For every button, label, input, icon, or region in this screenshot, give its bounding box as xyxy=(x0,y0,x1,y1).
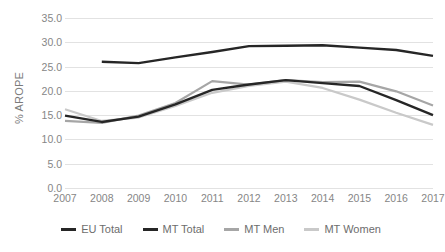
y-axis-tick-label: 35.0 xyxy=(42,12,62,24)
x-axis-tick-label: 2017 xyxy=(421,192,444,204)
x-axis-tick-label: 2015 xyxy=(348,192,371,204)
plot-area xyxy=(65,18,433,188)
y-axis-tick-label: 15.0 xyxy=(42,109,62,121)
x-axis-tick-label: 2008 xyxy=(90,192,113,204)
gridline xyxy=(65,188,433,189)
x-axis-tick-label: 2010 xyxy=(164,192,187,204)
x-axis-tick-label: 2016 xyxy=(385,192,408,204)
y-axis-tick-label: 10.0 xyxy=(42,133,62,145)
legend-label: MT Women xyxy=(324,223,380,235)
legend-item[interactable]: MT Total xyxy=(143,223,205,235)
y-axis-tick-label: 20.0 xyxy=(42,85,62,97)
y-axis-tick-labels: 0.05.010.015.020.025.030.035.0 xyxy=(20,18,62,188)
chart-legend: EU TotalMT TotalMT MenMT Women xyxy=(0,218,442,240)
legend-label: MT Men xyxy=(244,223,284,235)
y-axis-tick-label: 5.0 xyxy=(47,158,62,170)
series-line xyxy=(102,45,433,63)
legend-item[interactable]: MT Men xyxy=(224,223,284,235)
legend-item[interactable]: MT Women xyxy=(304,223,380,235)
legend-item[interactable]: EU Total xyxy=(61,223,122,235)
x-axis-tick-label: 2013 xyxy=(274,192,297,204)
x-axis-tick-label: 2011 xyxy=(201,192,224,204)
x-axis-tick-labels: 2007200820092010201120122013201420152016… xyxy=(65,192,433,208)
series-lines xyxy=(65,18,433,188)
legend-swatch-icon xyxy=(143,228,158,231)
legend-label: EU Total xyxy=(81,223,122,235)
x-axis-tick-label: 2007 xyxy=(53,192,76,204)
legend-swatch-icon xyxy=(304,228,319,231)
y-axis-tick-label: 30.0 xyxy=(42,36,62,48)
legend-swatch-icon xyxy=(224,228,239,231)
y-axis-tick-label: 25.0 xyxy=(42,61,62,73)
x-axis-tick-label: 2009 xyxy=(127,192,150,204)
x-axis-tick-label: 2014 xyxy=(311,192,334,204)
x-axis-tick-label: 2012 xyxy=(237,192,260,204)
legend-swatch-icon xyxy=(61,228,76,231)
legend-label: MT Total xyxy=(163,223,205,235)
